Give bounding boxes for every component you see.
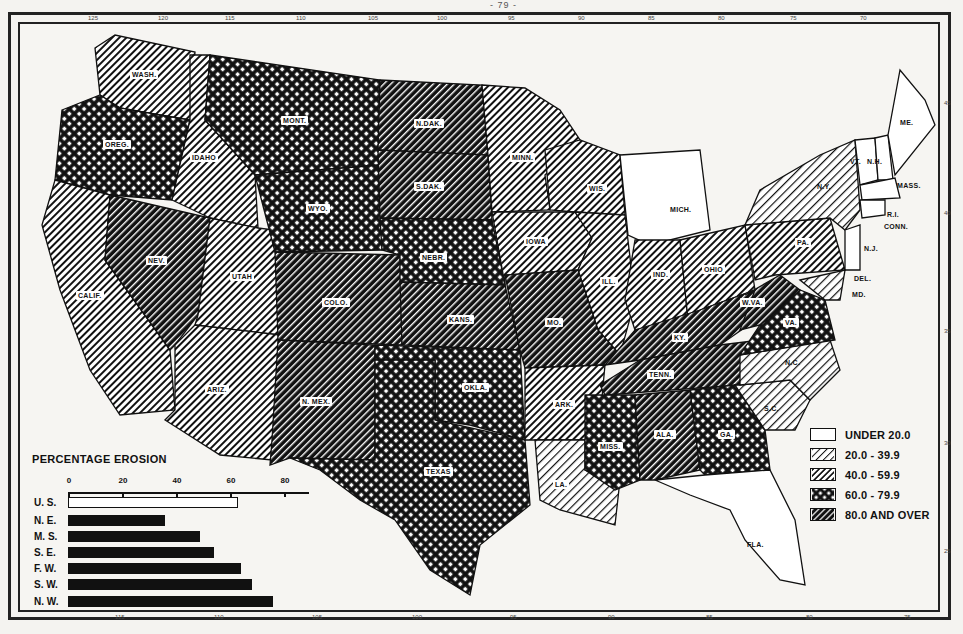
bar bbox=[68, 547, 214, 558]
medium-hatch-swatch-icon bbox=[810, 468, 836, 481]
x-axis bbox=[69, 492, 309, 494]
state-label-conn: CONN. bbox=[882, 222, 910, 231]
graticule-label: 40 bbox=[944, 210, 951, 216]
blank-swatch-icon bbox=[810, 428, 836, 441]
state-label-mont: MONT. bbox=[281, 116, 308, 125]
legend-label: 60.0 - 79.9 bbox=[845, 489, 900, 501]
graticule-label: 115 bbox=[225, 15, 235, 21]
graticule-label: 80 bbox=[806, 614, 813, 620]
graticule-label: 85 bbox=[706, 614, 713, 620]
state-label-nebr: NEBR. bbox=[420, 253, 447, 262]
state-label-sdak: S.DAK. bbox=[414, 182, 444, 191]
state-ny bbox=[745, 140, 860, 230]
state-label-mass: MASS. bbox=[895, 181, 923, 190]
bar bbox=[68, 579, 252, 590]
graticule-label: 105 bbox=[312, 614, 322, 620]
graticule-label: 95 bbox=[510, 614, 517, 620]
map-legend: UNDER 20.0 20.0 - 39.9 40.0 - 59.9 60.0 … bbox=[810, 425, 950, 525]
state-label-ind: IND. bbox=[651, 270, 670, 279]
state-label-pa: PA. bbox=[795, 238, 811, 247]
state-label-idaho: IDAHO bbox=[190, 153, 218, 162]
state-label-ri: R.I. bbox=[885, 210, 901, 219]
graticule-label: 90 bbox=[608, 614, 615, 620]
graticule-label: 95 bbox=[508, 15, 515, 21]
bar bbox=[68, 515, 165, 526]
graticule-label: 100 bbox=[412, 614, 422, 620]
state-label-ndak: N.DAK. bbox=[414, 119, 444, 128]
legend-label: UNDER 20.0 bbox=[845, 429, 911, 441]
graticule-label: 25 bbox=[944, 548, 951, 554]
legend-label: 80.0 AND OVER bbox=[845, 509, 930, 521]
state-label-sc: S.C. bbox=[762, 404, 781, 413]
page-number: - 79 - bbox=[490, 0, 517, 10]
legend-item: 20.0 - 39.9 bbox=[810, 445, 950, 464]
bar-row-nw: N. W. bbox=[30, 595, 273, 608]
tick-label: 80 bbox=[281, 476, 290, 485]
state-label-fla: FLA. bbox=[745, 540, 766, 549]
state-label-miss: MISS. bbox=[598, 442, 623, 451]
graticule-label: 90 bbox=[578, 15, 585, 21]
tick-mark bbox=[284, 492, 286, 497]
state-mich bbox=[620, 150, 710, 245]
bar-row-us: U. S. bbox=[30, 496, 238, 509]
bar-label: S. W. bbox=[30, 579, 68, 590]
legend-label: 20.0 - 39.9 bbox=[845, 449, 900, 461]
state-label-kans: KANS. bbox=[447, 315, 474, 324]
legend-item: 60.0 - 79.9 bbox=[810, 485, 950, 504]
state-nj bbox=[845, 225, 860, 270]
state-label-ny: N.Y. bbox=[815, 182, 833, 191]
state-label-colo: COLO. bbox=[322, 298, 350, 307]
state-label-nj: N.J. bbox=[862, 244, 880, 253]
bar-row-ms: M. S. bbox=[30, 530, 200, 543]
state-label-ohio: OHIO bbox=[702, 265, 725, 274]
bar-row-sw: S. W. bbox=[30, 578, 252, 591]
state-label-tenn: TENN. bbox=[647, 370, 674, 379]
erosion-bar-chart: PERCENTAGE EROSION 0 20 40 60 80 U. S. N… bbox=[30, 450, 300, 615]
graticule-label: 70 bbox=[860, 15, 867, 21]
state-label-va: VA. bbox=[783, 318, 799, 327]
bar bbox=[68, 563, 241, 574]
state-label-mich: MICH. bbox=[668, 205, 693, 214]
tick-label: 60 bbox=[227, 476, 236, 485]
state-pa bbox=[745, 218, 845, 280]
graticule-label: 125 bbox=[88, 15, 98, 21]
state-label-wis: WIS. bbox=[587, 184, 607, 193]
legend-item: 80.0 AND OVER bbox=[810, 505, 950, 524]
state-label-wash: WASH. bbox=[130, 70, 158, 79]
graticule-label: 110 bbox=[296, 15, 306, 21]
state-label-la: LA. bbox=[553, 480, 569, 489]
bar-row-fw: F. W. bbox=[30, 562, 241, 575]
legend-item: UNDER 20.0 bbox=[810, 425, 950, 444]
bar-label: S. E. bbox=[30, 547, 68, 558]
state-label-ariz: ARIZ. bbox=[205, 385, 229, 394]
state-label-ga: GA. bbox=[718, 430, 735, 439]
legend-label: 40.0 - 59.9 bbox=[845, 469, 900, 481]
state-label-ky: KY. bbox=[672, 333, 688, 342]
graticule-label: 100 bbox=[437, 15, 447, 21]
legend-item: 40.0 - 59.9 bbox=[810, 465, 950, 484]
graticule-label: 45 bbox=[944, 100, 951, 106]
graticule-label: 85 bbox=[648, 15, 655, 21]
state-conn bbox=[860, 200, 885, 218]
bar bbox=[68, 596, 273, 607]
state-label-del: DEL. bbox=[852, 274, 873, 283]
graticule-label: 75 bbox=[790, 15, 797, 21]
graticule-label: 35 bbox=[944, 328, 951, 334]
bar bbox=[68, 531, 200, 542]
bar bbox=[68, 497, 238, 508]
state-label-wyo: WYO. bbox=[306, 204, 330, 213]
bar-label: N. W. bbox=[30, 596, 68, 607]
graticule-label: 105 bbox=[368, 15, 378, 21]
state-label-nev: NEV. bbox=[146, 256, 167, 265]
bar-label: U. S. bbox=[30, 497, 68, 508]
state-label-oreg: OREG. bbox=[103, 140, 131, 149]
state-label-utah: UTAH bbox=[230, 272, 254, 281]
tick-label: 40 bbox=[173, 476, 182, 485]
state-label-md: MD. bbox=[850, 290, 868, 299]
state-wis bbox=[545, 140, 625, 215]
light-hatch-swatch-icon bbox=[810, 448, 836, 461]
state-label-wva: W.VA. bbox=[740, 298, 765, 307]
tick-label: 0 bbox=[67, 476, 71, 485]
state-label-vt: VT. bbox=[848, 157, 863, 166]
state-label-ill: ILL. bbox=[600, 277, 618, 286]
